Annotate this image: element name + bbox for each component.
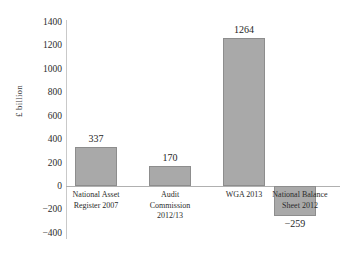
category-label-0: National Asset Register 2007 bbox=[54, 190, 138, 211]
category-label-1: Audit Commission 2012/13 bbox=[128, 190, 212, 222]
bar-1 bbox=[149, 166, 191, 186]
bar-chart: £ billion 1400120010008006004002000−200−… bbox=[0, 0, 355, 253]
bar-value-label-1: 170 bbox=[130, 152, 210, 163]
category-label-3: National Balance Sheet 2012 bbox=[258, 190, 342, 211]
bar-value-label-3: −259 bbox=[255, 218, 335, 229]
bar-value-label-2: 1264 bbox=[204, 24, 284, 35]
bar-value-label-0: 337 bbox=[56, 133, 136, 144]
bar-2 bbox=[223, 38, 265, 186]
plot-area: 337National Asset Register 2007170Audit … bbox=[0, 0, 355, 253]
bar-0 bbox=[75, 147, 117, 186]
